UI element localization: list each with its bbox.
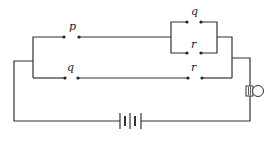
switch-q-lower-contact-left (63, 76, 66, 79)
upper-wire-left (33, 37, 64, 78)
switch-q-parallel-label: q (191, 5, 198, 18)
circuit-diagram: p q r q r (0, 0, 276, 141)
switch-r-lower-label: r (191, 61, 197, 74)
switch-q-lower-label: q (67, 61, 74, 74)
parallel-bottom-wire-left (171, 37, 187, 53)
parallel-bottom-wire-right (201, 37, 217, 53)
switch-r-parallel-label: r (191, 38, 197, 51)
parallel-top-wire-left (171, 22, 187, 37)
upper-branch: p q r (33, 5, 232, 78)
upper-wire-right (217, 37, 232, 78)
switch-r-parallel-contact-left (185, 51, 188, 54)
bulb-icon (246, 86, 264, 97)
battery-icon (120, 113, 141, 129)
lower-branch: q r (33, 61, 232, 80)
outer-loop (14, 58, 250, 121)
switch-p-label: p (69, 20, 76, 33)
switch-r-lower-contact-left (186, 76, 189, 79)
outer-wire-right-bottom (141, 96, 250, 121)
switch-q-parallel-contact-left (185, 20, 188, 23)
parallel-section: q r (171, 5, 217, 55)
outer-wire-right-top (232, 58, 250, 86)
switch-p-contact-left (62, 35, 65, 38)
parallel-top-wire-right (201, 22, 217, 37)
